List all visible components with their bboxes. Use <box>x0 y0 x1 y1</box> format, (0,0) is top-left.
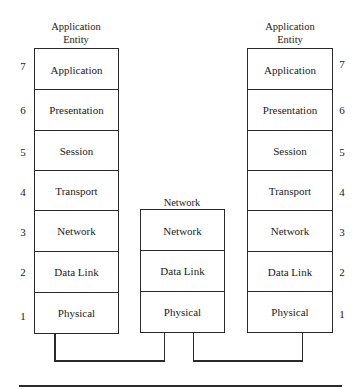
right-caption-line2: Entity <box>242 33 338 46</box>
middle-layer-network: Network <box>141 210 224 251</box>
left-entity-caption: Application Entity <box>28 20 124 46</box>
right-layer-presentation: Presentation <box>248 89 332 130</box>
layer-number-7-left: 7 <box>17 60 29 72</box>
layer-number-6-left: 6 <box>17 104 29 116</box>
left-layer-transport: Transport <box>35 170 118 210</box>
physical-link-left-drop <box>54 333 56 362</box>
middle-layer-physical: Physical <box>141 291 224 332</box>
right-layer-application: Application <box>248 49 332 90</box>
middle-network-caption: Network <box>136 196 228 209</box>
layer-number-5-right: 5 <box>336 146 348 158</box>
right-layer-session: Session <box>248 130 332 170</box>
right-layer-network: Network <box>248 210 332 251</box>
left-layer-session: Session <box>35 130 118 170</box>
left-caption-line2: Entity <box>28 33 124 46</box>
middle-layer-data-link: Data Link <box>141 250 224 291</box>
right-entity-caption: Application Entity <box>242 20 338 46</box>
layer-number-1-right: 1 <box>336 308 348 320</box>
layer-number-5-left: 5 <box>17 146 29 158</box>
layer-number-2-left: 2 <box>17 266 29 278</box>
layer-number-7-right: 7 <box>336 58 348 70</box>
left-protocol-stack: Application Presentation Session Transpo… <box>34 48 119 334</box>
right-layer-data-link: Data Link <box>248 251 332 291</box>
middle-relay-stack: Network Data Link Physical <box>140 209 225 333</box>
figure-bottom-rule <box>19 385 342 387</box>
right-layer-transport: Transport <box>248 170 332 210</box>
layer-number-3-right: 3 <box>336 226 348 238</box>
physical-link-middle-drop-left <box>164 332 166 362</box>
layer-number-4-right: 4 <box>336 186 348 198</box>
layer-number-1-left: 1 <box>17 310 29 322</box>
left-layer-application: Application <box>35 49 118 90</box>
layer-number-6-right: 6 <box>336 104 348 116</box>
right-protocol-stack: Application Presentation Session Transpo… <box>247 48 333 333</box>
left-layer-physical: Physical <box>35 292 118 333</box>
right-layer-physical: Physical <box>248 291 332 332</box>
left-layer-data-link: Data Link <box>35 251 118 292</box>
physical-link-right-drop <box>302 332 304 362</box>
right-caption-line1: Application <box>242 20 338 33</box>
layer-number-2-right: 2 <box>336 266 348 278</box>
left-caption-line1: Application <box>28 20 124 33</box>
left-layer-network: Network <box>35 210 118 251</box>
physical-link-left-horizontal <box>54 360 165 362</box>
layer-number-3-left: 3 <box>17 226 29 238</box>
left-layer-presentation: Presentation <box>35 89 118 130</box>
physical-link-right-horizontal <box>193 360 303 362</box>
physical-link-middle-drop-right <box>193 332 195 362</box>
layer-number-4-left: 4 <box>17 186 29 198</box>
